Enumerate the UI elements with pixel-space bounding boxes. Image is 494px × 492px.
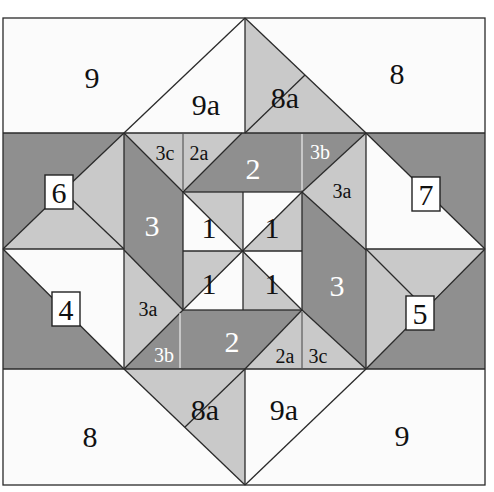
- label-3c-bottom: 3c: [309, 345, 328, 367]
- label-3b-top: 3b: [310, 141, 330, 163]
- label-3-right: 3: [330, 269, 345, 302]
- label-4: 4: [59, 293, 74, 326]
- label-3a-bottom: 3a: [139, 298, 158, 320]
- label-8a-bottom: 8a: [191, 393, 219, 426]
- label-8a-top: 8a: [271, 81, 299, 114]
- label-8-bottom-left: 8: [83, 420, 98, 453]
- label-9-top-left: 9: [85, 61, 100, 94]
- label-3a-top: 3a: [333, 180, 352, 202]
- label-1-tr: 1: [265, 211, 280, 244]
- label-7: 7: [419, 178, 434, 211]
- label-3-left: 3: [145, 209, 160, 242]
- label-2a-bottom: 2a: [276, 345, 295, 367]
- quilt-block-diagram: 9 9a 8a 8 8 8a 9a 9 6 7 4 5 2 3 3 2 1 1 …: [0, 0, 494, 492]
- label-8-top-right: 8: [390, 57, 405, 90]
- label-6: 6: [52, 176, 67, 209]
- label-9a-top: 9a: [192, 88, 220, 121]
- label-9a-bottom: 9a: [270, 393, 298, 426]
- label-1-br: 1: [265, 267, 280, 300]
- label-1-tl: 1: [202, 211, 217, 244]
- label-5: 5: [413, 297, 428, 330]
- label-2-bottom: 2: [225, 325, 240, 358]
- label-2-top: 2: [246, 152, 261, 185]
- label-2a-top: 2a: [190, 142, 209, 164]
- label-3c-top: 3c: [156, 142, 175, 164]
- label-3b-bottom: 3b: [154, 344, 174, 366]
- label-1-bl: 1: [202, 267, 217, 300]
- label-9-bottom-right: 9: [395, 419, 410, 452]
